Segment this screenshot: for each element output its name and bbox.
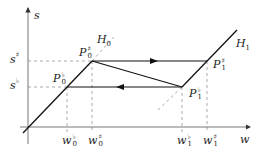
y-tick-s-flat: s♭ <box>10 79 19 91</box>
point-p1-sharp-label: P♯1 <box>213 58 226 71</box>
y-axis-label: s <box>34 10 40 21</box>
h1-label: H1 <box>236 38 250 52</box>
x-axis-label: w <box>240 134 249 145</box>
x-tick-w1-sharp: w♯1 <box>203 134 218 147</box>
point-p0-sharp-label: P♯0 <box>79 46 92 59</box>
x-tick-w1-flat: w♭1 <box>177 134 192 147</box>
arrow-left <box>116 84 124 90</box>
h0-label: H0 <box>97 34 111 48</box>
h1-line <box>182 30 237 87</box>
y-tick-s-sharp: s♯ <box>10 53 19 65</box>
hysteresis-diagram <box>0 0 260 154</box>
point-p0-flat-label: P♭0 <box>53 72 66 85</box>
x-tick-w0-flat: w♭0 <box>62 134 77 147</box>
arrow-right <box>150 58 158 64</box>
segment-p0sharp-p1flat <box>92 61 182 87</box>
x-tick-w0-sharp: w♯0 <box>88 134 103 147</box>
point-p1-flat-label: P♭1 <box>189 87 202 100</box>
